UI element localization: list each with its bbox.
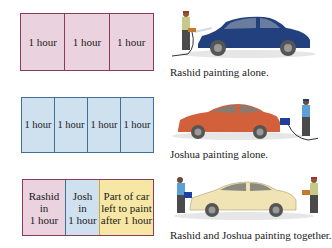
hour-cell: 1 hour (88, 98, 121, 152)
hour-cell: 1 hour (110, 14, 153, 70)
together-painting-car-illustration (168, 172, 320, 222)
cell-line: 1 hour (29, 214, 60, 226)
hour-cell: 1 hour (21, 14, 65, 70)
joshua-caption: Joshua painting alone. (170, 148, 268, 160)
cell-line: after 1 hour (101, 214, 152, 226)
rashid-caption: Rashid painting alone. (170, 66, 269, 78)
cell-line: 1 hour (68, 214, 96, 226)
joshua-painting-car-illustration (168, 92, 318, 144)
combined-work-bar: Rashid in 1 hour Josh in 1 hour Part of … (22, 179, 154, 236)
cell-line: left to paint (101, 202, 152, 214)
hour-cell: 1 hour (121, 98, 153, 152)
hour-cell: 1 hour (55, 98, 88, 152)
remaining-portion-cell: Part of car left to paint after 1 hour (100, 180, 153, 235)
rashid-portion-cell: Rashid in 1 hour (23, 180, 66, 235)
cell-line: Rashid (29, 190, 60, 202)
rashid-hours-bar: 1 hour 1 hour 1 hour (20, 13, 154, 71)
rashid-painting-car-illustration (168, 6, 318, 60)
cell-line: in (68, 202, 96, 214)
joshua-hours-bar: 1 hour 1 hour 1 hour 1 hour (21, 97, 154, 153)
cell-line: in (29, 202, 60, 214)
cell-line: Part of car (101, 190, 152, 202)
hour-cell: 1 hour (22, 98, 55, 152)
together-caption: Rashid and Joshua painting together. (170, 229, 332, 241)
josh-portion-cell: Josh in 1 hour (66, 180, 100, 235)
hour-cell: 1 hour (65, 14, 109, 70)
cell-line: Josh (68, 190, 96, 202)
